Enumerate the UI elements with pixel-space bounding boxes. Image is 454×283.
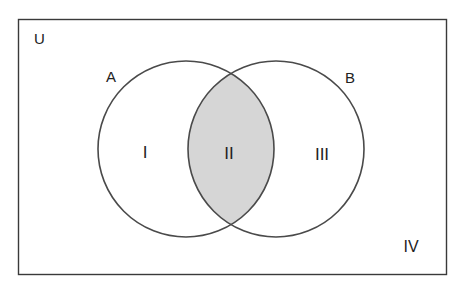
region-i-label: I [143, 143, 148, 162]
region-iv-label: IV [403, 238, 418, 255]
venn-diagram: U A B I II III IV [0, 0, 454, 283]
region-ii-label: II [224, 144, 233, 163]
set-b-label: B [345, 69, 355, 86]
universe-label: U [34, 30, 45, 47]
region-iii-label: III [315, 145, 329, 164]
set-a-label: A [106, 68, 116, 85]
